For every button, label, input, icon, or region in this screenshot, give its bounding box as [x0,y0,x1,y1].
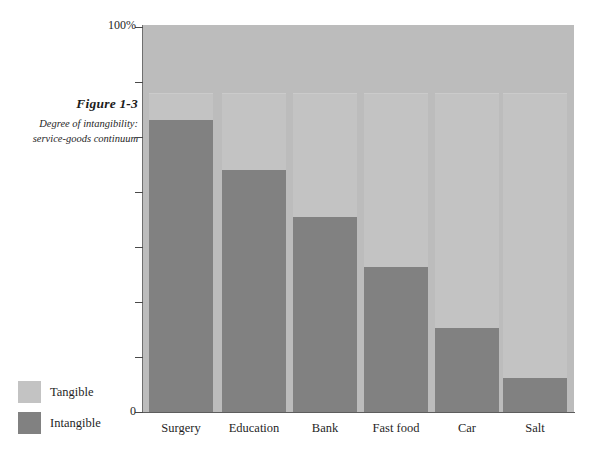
segment-intangible [503,378,567,413]
figure-caption-subtitle: Degree of intangibility: service-goods c… [8,116,138,146]
legend-item-tangible: Tangible [18,380,101,404]
segment-tangible [503,93,567,378]
segment-intangible [293,217,357,413]
legend-swatch-intangible [18,412,41,434]
legend-label-intangible: Intangible [50,416,101,431]
y-axis-tick [135,82,143,83]
segment-tangible [149,93,213,120]
segment-tangible [293,93,357,216]
y-axis-tick [135,27,143,28]
segment-intangible [222,170,286,413]
segment-tangible [222,93,286,170]
chart-column-car [435,93,499,413]
figure-caption-subtitle-line-1: Degree of intangibility: [8,116,138,131]
figure-caption-title: Figure 1-3 [8,96,138,113]
chart-column-salt [503,93,567,413]
legend-swatch-tangible [18,381,41,403]
y-axis-label-max: 100% [108,18,136,33]
y-axis-tick [135,412,143,413]
segment-intangible [435,328,499,413]
segment-tangible [435,93,499,328]
chart-column-surgery [149,93,213,413]
legend-label-tangible: Tangible [50,385,94,400]
chart-column-education [222,93,286,413]
y-axis-tick [135,302,143,303]
chart-plot-area [143,25,574,413]
x-axis-line [142,412,575,413]
chart-column-bank [293,93,357,413]
x-axis-label-salt: Salt [485,421,585,436]
chart-legend: TangibleIntangible [18,380,101,442]
segment-intangible [149,120,213,413]
y-axis-label-min: 0 [130,404,136,419]
chart-column-fast-food [364,93,428,413]
y-axis-tick [135,357,143,358]
segment-intangible [364,267,428,413]
legend-item-intangible: Intangible [18,411,101,435]
segment-tangible [364,93,428,266]
y-axis-tick [135,192,143,193]
y-axis-tick [135,137,143,138]
y-axis-tick [135,247,143,248]
figure-caption-subtitle-line-2: service-goods continuum [8,131,138,146]
figure-caption: Figure 1-3 Degree of intangibility: serv… [8,96,138,146]
y-axis-line [142,25,143,413]
